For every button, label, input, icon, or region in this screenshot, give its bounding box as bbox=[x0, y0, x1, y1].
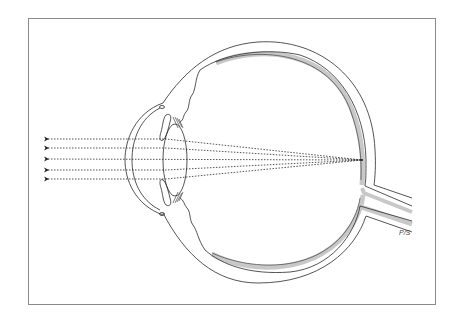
lens bbox=[163, 124, 187, 196]
light-rays bbox=[48, 139, 362, 179]
arrowhead-icon bbox=[44, 137, 49, 142]
artist-signature: P/S bbox=[399, 229, 411, 236]
eye-diagram: P/S bbox=[0, 0, 458, 312]
ray-4 bbox=[48, 160, 362, 170]
zonules-upper bbox=[173, 117, 183, 128]
arrowhead-icon bbox=[44, 168, 49, 173]
sclera-outer bbox=[163, 42, 412, 283]
arrowhead-icon bbox=[44, 177, 49, 182]
zonules-lower bbox=[173, 192, 183, 203]
iris-upper bbox=[160, 114, 171, 140]
iris-lower bbox=[160, 179, 171, 205]
canal-upper bbox=[160, 106, 165, 109]
ray-3 bbox=[48, 159, 362, 160]
focal-point bbox=[361, 159, 363, 161]
arrowhead-icon bbox=[44, 157, 49, 162]
ray-2 bbox=[48, 148, 362, 160]
ray-arrowheads bbox=[44, 137, 49, 182]
ray-5 bbox=[48, 160, 362, 179]
retina-upper bbox=[216, 54, 363, 185]
arrowhead-icon bbox=[44, 146, 49, 151]
retina-lower bbox=[212, 195, 363, 267]
retina-inner-edge-lower bbox=[212, 198, 360, 265]
ciliary-body-lower bbox=[180, 198, 205, 250]
sclera-inner bbox=[200, 52, 412, 206]
